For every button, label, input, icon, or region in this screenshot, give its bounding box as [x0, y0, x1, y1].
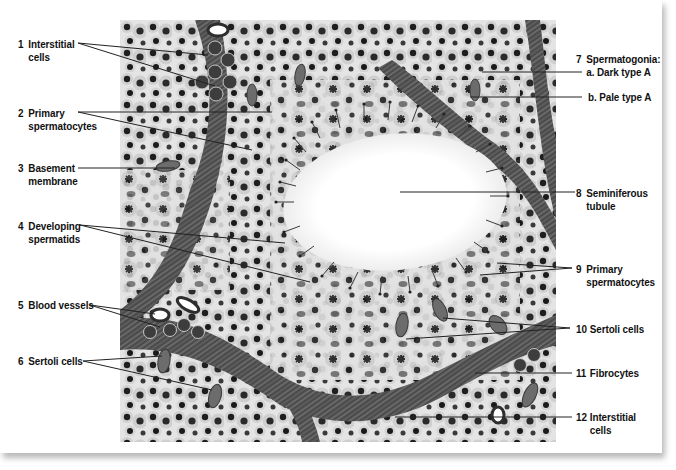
label-text: Blood vessels [28, 299, 93, 311]
label-12-interstitial-cells: 12Interstitial cells [576, 411, 636, 437]
label-number: 2 [18, 107, 28, 120]
label-1-interstitial-cells: 1Interstitial cells [18, 38, 75, 64]
label-3-basement-membrane: 3Basement membrane [18, 162, 78, 188]
label-text: Interstitial [28, 38, 74, 50]
label-text: Primary [28, 107, 64, 119]
histology-illustration [120, 20, 556, 442]
label-text: Seminiferous [586, 187, 648, 199]
label-9-primary-spermatocytes: 9Primary spermatocytes [576, 263, 655, 289]
label-number: 9 [576, 263, 586, 276]
label-text: Basement [28, 162, 75, 174]
label-text: Developing [28, 220, 80, 232]
label-5-blood-vessels: 5Blood vessels [18, 299, 94, 312]
label-7-spermatogonia: 7Spermatogonia: a. Dark type A [576, 53, 660, 79]
label-text: Spermatogonia: [586, 53, 660, 65]
label-number: 5 [18, 299, 28, 312]
label-number: 12 [576, 411, 590, 424]
label-text-line2: cells [576, 424, 636, 437]
label-text: Sertoli cells [28, 355, 82, 367]
label-2-primary-spermatocytes: 2Primary spermatocytes [18, 107, 97, 133]
label-8-seminiferous-tubule: 8Seminiferous tubule [576, 187, 648, 213]
label-6-sertoli-cells: 6Sertoli cells [18, 355, 83, 368]
label-number: 1 [18, 38, 28, 51]
label-text-line2: cells [18, 51, 75, 64]
label-number: 10 [576, 323, 590, 336]
label-number: 6 [18, 355, 28, 368]
label-text: Fibrocytes [590, 367, 639, 379]
label-number: 3 [18, 162, 28, 175]
label-number: 8 [576, 187, 586, 200]
label-number: 11 [576, 367, 590, 380]
label-10-sertoli-cells: 10Sertoli cells [576, 323, 644, 336]
label-text-line2: spermatocytes [18, 120, 97, 133]
label-text-line2: spermatids [18, 233, 81, 246]
label-4-developing-spermatids: 4Developing spermatids [18, 220, 81, 246]
label-text: b. Pale type A [588, 91, 651, 103]
label-7b-pale-type-a: b. Pale type A [588, 91, 651, 104]
figure-card: 1Interstitial cells 2Primary spermatocyt… [0, 0, 662, 453]
label-text-line2: membrane [18, 175, 78, 188]
label-7a-dark-type-a: a. Dark type A [576, 66, 660, 79]
label-number: 4 [18, 220, 28, 233]
label-11-fibrocytes: 11Fibrocytes [576, 367, 639, 380]
label-text: Sertoli cells [590, 323, 644, 335]
label-text: Interstitial [590, 411, 636, 423]
label-text-line2: spermatocytes [576, 276, 655, 289]
label-number: 7 [576, 53, 586, 66]
label-text: Primary [586, 263, 622, 275]
label-text-line2: tubule [576, 200, 648, 213]
